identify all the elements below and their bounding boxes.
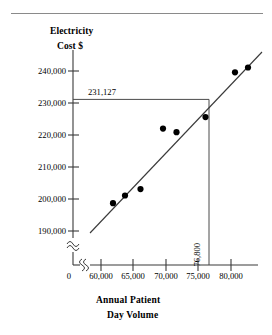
data-point [160,126,166,132]
data-point [202,114,208,120]
data-point [122,192,128,198]
data-point [232,69,238,75]
data-point [110,200,116,206]
data-point [137,186,143,192]
scattergraph-figure: Electricity Cost $ 240,000 230,000 220,0… [0,0,272,335]
plot-canvas [0,0,272,335]
regression-trend-line [90,52,262,233]
data-point [245,64,251,70]
data-point [173,129,179,135]
